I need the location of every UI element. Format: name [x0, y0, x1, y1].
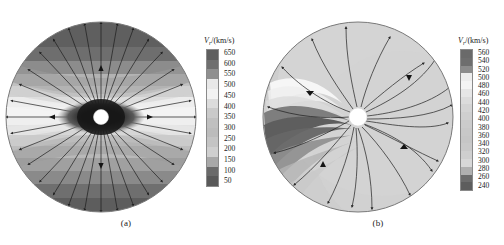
panel-b-colorbar-swatch	[461, 104, 472, 112]
panel-b-colorbar-strip	[460, 49, 473, 191]
panel-a-colorbar-tick-label: 550	[224, 70, 235, 78]
panel-b-colorbar-swatch	[461, 97, 472, 105]
panel-a-colorbar-swatch	[207, 50, 218, 60]
panel-b-colorbar-unit: /(km/s)	[465, 36, 488, 45]
panel-a-colorbar-swatch	[207, 157, 218, 167]
panel-a-colorbar-tick-label: 100	[224, 167, 235, 175]
panel-a-plot	[5, 21, 197, 213]
panel-b-colorbar-swatch	[461, 175, 472, 183]
panel-a-colorbar-swatch	[207, 128, 218, 138]
panel-a-colorbar-tick-label: 450	[224, 92, 235, 100]
panel-b-colorbar-tick-label: 380	[478, 124, 489, 132]
panel-b-label: (b)	[252, 218, 504, 228]
figure-solar-wind-speed-maps: Vr/(km/s) 650600550500450400350300250200…	[0, 0, 504, 245]
panel-a-colorbar-swatch	[207, 69, 218, 79]
panel-b-colorbar-swatch	[461, 159, 472, 167]
panel-b-colorbar-swatch	[461, 112, 472, 120]
panel-b-colorbar-swatch	[461, 151, 472, 159]
panel-a-colorbar-unit: /(km/s)	[211, 36, 234, 45]
panel-a-colorbar-swatch	[207, 118, 218, 128]
panel-b-colorbar-tick-label: 260	[478, 173, 489, 181]
panel-b-colorbar-swatch	[461, 50, 472, 58]
panel-a-colorbar-tick-label: 300	[224, 124, 235, 132]
panel-b-colorbar-swatch	[461, 81, 472, 89]
panel-b-colorbar-swatch	[461, 120, 472, 128]
panel-b-colorbar-tick-label: 400	[478, 115, 489, 123]
panel-a-colorbar-tick-label: 650	[224, 49, 235, 57]
panel-b-colorbar-swatch	[461, 136, 472, 144]
panel-a-label: (a)	[0, 218, 252, 228]
panel-b-disk	[262, 21, 454, 213]
panel-b-colorbar-swatch	[461, 167, 472, 175]
panel-a-colorbar-swatch	[207, 137, 218, 147]
panel-b-colorbar-title: Vr/(km/s)	[458, 36, 489, 46]
panel-a-colorbar-tick-label: 200	[224, 145, 235, 153]
panel-a-colorbar-strip	[206, 49, 219, 187]
panel-b-colorbar-tick-label: 460	[478, 90, 489, 98]
panel-a-colorbar-swatch	[207, 79, 218, 89]
panel-b-colorbar-swatch	[461, 73, 472, 81]
panel-b-colorbar-tick-label: 540	[478, 57, 489, 65]
panel-a-colorbar-tick-label: 50	[224, 177, 235, 185]
panel-a-colorbar: Vr/(km/s) 650600550500450400350300250200…	[206, 36, 235, 187]
panel-a-colorbar-swatch	[207, 89, 218, 99]
panel-b-colorbar-swatch	[461, 182, 472, 190]
panel-b-colorbar-tick-label: 240	[478, 182, 489, 190]
panel-b: Vr/(km/s) 560540520500480460440420400380…	[252, 0, 504, 245]
panel-a-colorbar-swatch	[207, 167, 218, 177]
panel-b-colorbar-ticks: 5605405205004804604404204003803603403203…	[478, 49, 489, 189]
panel-b-plot	[262, 21, 454, 213]
panel-b-colorbar-tick-label: 320	[478, 148, 489, 156]
panel-b-colorbar-swatch	[461, 89, 472, 97]
panel-a-colorbar-swatch	[207, 60, 218, 70]
panel-b-colorbar-swatch	[461, 58, 472, 66]
panel-a: Vr/(km/s) 650600550500450400350300250200…	[0, 0, 252, 245]
panel-a-disk	[5, 21, 197, 213]
panel-a-colorbar-swatch	[207, 176, 218, 186]
panel-a-colorbar-tick-label: 600	[224, 60, 235, 68]
panel-a-colorbar-swatch	[207, 99, 218, 109]
panel-a-colorbar-swatch	[207, 147, 218, 157]
panel-b-colorbar-swatch	[461, 143, 472, 151]
panel-a-colorbar-tick-label: 150	[224, 156, 235, 164]
panel-a-colorbar-title: Vr/(km/s)	[204, 36, 235, 46]
panel-b-sun-marker	[349, 108, 367, 126]
panel-b-colorbar-tick-label: 520	[478, 66, 489, 74]
panel-a-colorbar-tick-label: 500	[224, 81, 235, 89]
panel-a-colorbar-ticks: 65060055050045040035030025020015010050	[224, 49, 235, 185]
panel-a-colorbar-tick-label: 400	[224, 103, 235, 111]
panel-b-colorbar-swatch	[461, 128, 472, 136]
panel-a-colorbar-swatch	[207, 108, 218, 118]
panel-a-sun-marker	[94, 110, 109, 125]
panel-a-colorbar-tick-label: 350	[224, 113, 235, 121]
panel-b-colorbar: Vr/(km/s) 560540520500480460440420400380…	[460, 36, 489, 191]
panel-a-colorbar-tick-label: 250	[224, 135, 235, 143]
panel-b-colorbar-swatch	[461, 66, 472, 74]
